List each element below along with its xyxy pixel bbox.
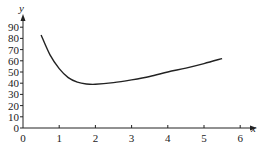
y-axis-arrow-icon <box>21 14 26 21</box>
x-tick-label: 5 <box>201 132 207 144</box>
y-tick-label: 70 <box>8 44 20 56</box>
x-tick-label: 2 <box>93 132 99 144</box>
y-axis-label: y <box>18 2 24 14</box>
y-tick-label: 40 <box>8 77 20 89</box>
x-tick-label: 4 <box>165 132 171 144</box>
x-axis-label: x <box>250 122 256 134</box>
y-tick-label: 10 <box>8 111 20 123</box>
x-tick-label: 1 <box>56 132 62 144</box>
line-chart: y x 0102030405060708090 0123456 <box>0 0 262 152</box>
y-tick-label: 30 <box>8 88 20 100</box>
data-curve <box>41 35 222 84</box>
y-tick-label: 80 <box>8 32 20 44</box>
y-ticks: 0102030405060708090 <box>8 21 23 134</box>
y-tick-label: 60 <box>8 55 20 67</box>
y-tick-label: 90 <box>8 21 20 33</box>
y-tick-label: 50 <box>8 66 20 78</box>
y-axis: y <box>18 2 26 128</box>
y-tick-label: 20 <box>8 100 20 112</box>
x-tick-label: 6 <box>237 132 243 144</box>
x-tick-label: 3 <box>129 132 135 144</box>
x-tick-label: 0 <box>20 132 26 144</box>
y-tick-label: 0 <box>14 122 20 134</box>
